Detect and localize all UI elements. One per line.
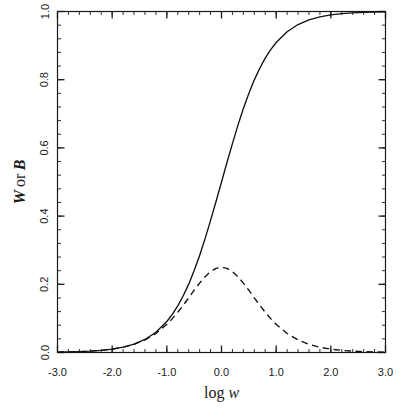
x-axis-title: log w <box>204 384 239 402</box>
x-tick-label: 2.0 <box>323 366 338 378</box>
y-tick-label: 0.2 <box>39 277 51 292</box>
y-tick-label: 0.0 <box>39 345 51 360</box>
x-tick-label: -3.0 <box>48 366 67 378</box>
y-tick-label: 0.8 <box>39 72 51 87</box>
y-tick-label: 0.6 <box>39 140 51 155</box>
x-tick-label: -1.0 <box>157 366 176 378</box>
y-axis-title: W or B <box>11 159 28 204</box>
x-tick-label: 1.0 <box>269 366 284 378</box>
x-tick-label: -2.0 <box>103 366 122 378</box>
chart-background <box>0 0 401 418</box>
chart-plot: -3.0-2.0-1.00.01.02.03.0 0.00.20.40.60.8… <box>0 0 401 418</box>
y-tick-label: 1.0 <box>39 4 51 19</box>
figure-container: -3.0-2.0-1.00.01.02.03.0 0.00.20.40.60.8… <box>0 0 401 418</box>
y-tick-label: 0.4 <box>39 208 51 223</box>
x-tick-label: 0.0 <box>214 366 229 378</box>
x-tick-label: 3.0 <box>378 366 393 378</box>
